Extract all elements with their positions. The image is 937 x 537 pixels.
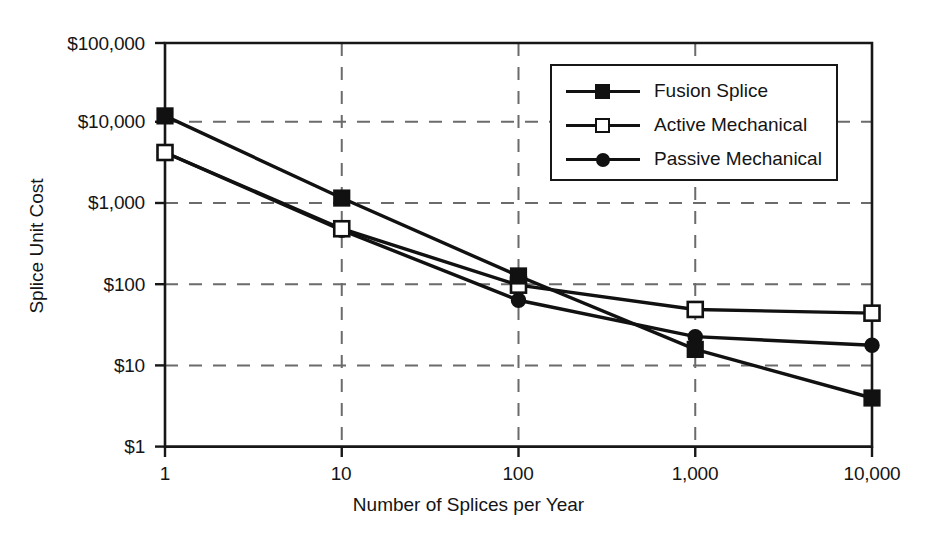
legend-entry-active-mechanical: Active Mechanical bbox=[552, 108, 840, 142]
legend-label-fusion-splice: Fusion Splice bbox=[654, 80, 768, 102]
y-tick-label-10000: $10,000 bbox=[14, 112, 145, 131]
legend-marker-open-square-icon bbox=[566, 113, 640, 137]
x-tick-label-1000: 1,000 bbox=[655, 464, 735, 483]
y-tick-label-10: $10 bbox=[14, 356, 145, 375]
legend-marker-filled-square-icon bbox=[566, 79, 640, 103]
legend-label-active-mechanical: Active Mechanical bbox=[654, 114, 807, 136]
legend-entry-fusion-splice: Fusion Splice bbox=[552, 74, 840, 108]
x-axis-title: Number of Splices per Year bbox=[0, 494, 937, 516]
y-tick-label-100000: $100,000 bbox=[14, 34, 145, 53]
chart-figure: $100,000 $10,000 $1,000 $100 $10 $1 1 10… bbox=[0, 0, 937, 537]
x-tick-label-10000: 10,000 bbox=[832, 464, 912, 483]
x-tick-label-1: 1 bbox=[125, 464, 205, 483]
chart-legend: Fusion Splice Active Mechanical Passive … bbox=[550, 64, 838, 181]
y-axis-ticks bbox=[155, 43, 165, 447]
legend-marker-filled-circle-icon bbox=[566, 147, 640, 171]
legend-entry-passive-mechanical: Passive Mechanical bbox=[552, 142, 840, 176]
y-tick-label-1: $1 bbox=[14, 437, 145, 456]
x-tick-label-100: 100 bbox=[478, 464, 558, 483]
legend-label-passive-mechanical: Passive Mechanical bbox=[654, 148, 822, 170]
y-axis-title: Splice Unit Cost bbox=[26, 151, 48, 341]
x-tick-label-10: 10 bbox=[301, 464, 381, 483]
x-axis-ticks bbox=[165, 447, 872, 457]
